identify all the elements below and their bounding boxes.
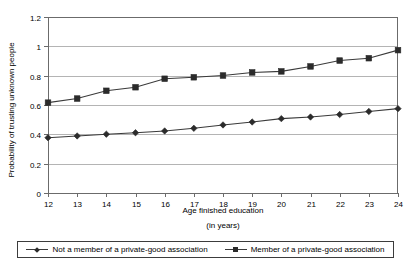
gridlines-group: [48, 18, 398, 165]
y-tick-labels-group: 00.20.40.60.811.2: [30, 14, 42, 199]
data-point-marker: [220, 73, 226, 79]
y-tick-label: 1.2: [30, 14, 42, 23]
data-point-marker: [104, 88, 110, 94]
x-axis-title: Age finished education: [183, 206, 264, 215]
diamond-marker-icon: [26, 245, 48, 254]
data-point-marker: [249, 70, 255, 76]
y-tick-label: 0: [37, 190, 42, 199]
square-marker-icon: [225, 245, 247, 254]
x-tick-label: 23: [365, 200, 374, 209]
chart-figure: 00.20.40.60.811.2 1213141516171819202122…: [0, 0, 413, 265]
x-tick-label: 22: [336, 200, 345, 209]
y-tick-label: 0.8: [30, 73, 42, 82]
chart-legend: Not a member of a private-good associati…: [17, 241, 394, 258]
data-point-marker: [191, 74, 197, 80]
x-tick-label: 14: [102, 200, 111, 209]
data-point-marker: [308, 64, 314, 70]
data-point-marker: [162, 76, 168, 82]
y-axis-title: Probability of trusting unknown people: [7, 42, 16, 178]
data-point-marker: [337, 58, 343, 64]
x-tick-label: 21: [307, 200, 316, 209]
x-axis-subtitle: (in years): [206, 221, 240, 230]
x-tick-label: 13: [73, 200, 82, 209]
data-point-marker: [220, 122, 226, 128]
x-tick-label: 15: [132, 200, 141, 209]
legend-entry-not-member[interactable]: Not a member of a private-good associati…: [26, 245, 207, 254]
y-tick-label: 0.4: [30, 131, 42, 140]
y-tick-label: 1: [37, 43, 42, 52]
data-point-marker: [366, 108, 372, 114]
data-point-marker: [45, 135, 51, 141]
data-point-marker: [133, 84, 139, 90]
legend-label-member: Member of a private-good association: [251, 245, 385, 254]
data-point-marker: [395, 47, 401, 53]
plot-area: 00.20.40.60.811.2 1213141516171819202122…: [0, 0, 413, 235]
x-tick-label: 24: [394, 200, 403, 209]
x-tick-label: 12: [44, 200, 53, 209]
data-point-marker: [307, 114, 313, 120]
data-point-marker: [395, 105, 401, 111]
x-tick-label: 16: [161, 200, 170, 209]
y-tick-label: 0.2: [30, 161, 42, 170]
data-point-marker: [161, 128, 167, 134]
data-point-marker: [191, 125, 197, 131]
data-point-marker: [249, 119, 255, 125]
data-point-marker: [103, 131, 109, 137]
data-point-marker: [45, 100, 51, 106]
x-tick-label: 20: [277, 200, 286, 209]
data-point-marker: [336, 111, 342, 117]
data-point-marker: [279, 69, 285, 75]
data-point-marker: [366, 55, 372, 61]
y-tick-label: 0.6: [30, 102, 42, 111]
data-point-marker: [74, 133, 80, 139]
data-point-marker: [278, 115, 284, 121]
legend-entry-member[interactable]: Member of a private-good association: [225, 245, 385, 254]
data-point-marker: [74, 96, 80, 102]
line-chart-svg: 00.20.40.60.811.2 1213141516171819202122…: [0, 0, 413, 235]
series-markers-group: [45, 47, 401, 141]
legend-label-not-member: Not a member of a private-good associati…: [52, 245, 207, 254]
